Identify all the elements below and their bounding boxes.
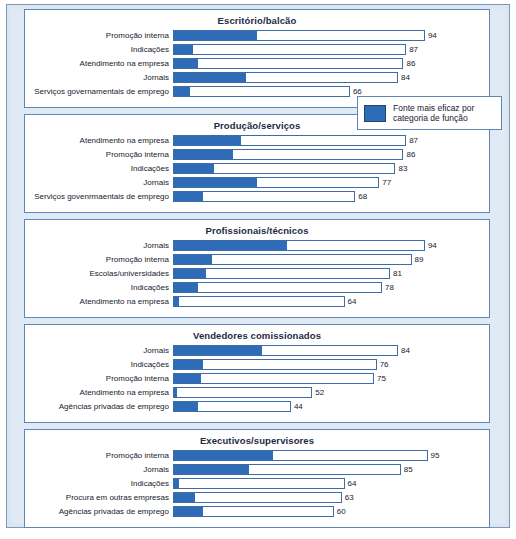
chart-panel: Escritório/balcãoPromoção interna94Indic… xyxy=(24,9,490,108)
bar-row: Indicações83 xyxy=(31,162,483,175)
bar-category-label: Escolas/universidades xyxy=(31,269,173,278)
bar xyxy=(173,359,377,370)
bar xyxy=(173,191,355,202)
bar-row: Promoção interna86 xyxy=(31,148,483,161)
bar-track: 86 xyxy=(173,148,483,161)
bar-value-label: 64 xyxy=(348,478,357,489)
bar-track: 68 xyxy=(173,190,483,203)
bar-row: Procura em outras empresas63 xyxy=(31,491,483,504)
bar-category-label: Jornais xyxy=(31,465,173,474)
bar xyxy=(173,296,345,307)
bar xyxy=(173,135,406,146)
bar-effective-segment xyxy=(174,507,203,516)
bar-effective-segment xyxy=(174,451,273,460)
bar-effective-segment xyxy=(174,241,287,250)
bar-effective-segment xyxy=(174,136,241,145)
bar-track: 83 xyxy=(173,162,483,175)
page-bleed-artifact xyxy=(10,529,506,538)
bar xyxy=(173,30,425,41)
bar-category-label: Indicações xyxy=(31,283,173,292)
bar-effective-segment xyxy=(174,479,179,488)
bar-row: Escolas/universidades81 xyxy=(31,267,483,280)
bar-track: 52 xyxy=(173,386,483,399)
bar-value-label: 75 xyxy=(377,373,386,384)
bar-value-label: 87 xyxy=(409,44,418,55)
bar xyxy=(173,401,291,412)
bar-category-label: Jornais xyxy=(31,241,173,250)
bar-row: Indicações87 xyxy=(31,43,483,56)
bar-row: Indicações78 xyxy=(31,281,483,294)
panel-title: Vendedores comissionados xyxy=(31,330,483,341)
bar-value-label: 86 xyxy=(406,149,415,160)
bar xyxy=(173,240,425,251)
chart-panel: Vendedores comissionadosJornais84Indicaç… xyxy=(24,324,490,423)
bar-category-label: Atendimento na empresa xyxy=(31,59,173,68)
bar-value-label: 52 xyxy=(315,387,324,398)
bar-row: Jornais84 xyxy=(31,71,483,84)
bar-value-label: 84 xyxy=(401,72,410,83)
bar-track: 84 xyxy=(173,71,483,84)
bar-rows: Jornais84Indicações76Promoção interna75A… xyxy=(31,344,483,413)
bar-value-label: 85 xyxy=(404,464,413,475)
bar-track: 77 xyxy=(173,176,483,189)
bar-effective-segment xyxy=(174,269,206,278)
bar-rows: Promoção interna94Indicações87Atendiment… xyxy=(31,29,483,98)
bar xyxy=(173,268,390,279)
bar-row: Atendimento na empresa86 xyxy=(31,57,483,70)
bar-effective-segment xyxy=(174,178,257,187)
legend-box: Fonte mais eficaz por categoria de funçã… xyxy=(357,96,502,130)
bar-track: 94 xyxy=(173,29,483,42)
bar xyxy=(173,345,398,356)
panel-title: Executivos/supervisores xyxy=(31,435,483,446)
bar-track: 78 xyxy=(173,281,483,294)
bar-effective-segment xyxy=(174,374,201,383)
bar xyxy=(173,44,406,55)
bar-track: 95 xyxy=(173,449,483,462)
bar-track: 87 xyxy=(173,43,483,56)
bar-effective-segment xyxy=(174,493,195,502)
bar-value-label: 76 xyxy=(380,359,389,370)
bar-effective-segment xyxy=(174,360,203,369)
bar-value-label: 68 xyxy=(358,191,367,202)
bar-row: Agências privadas de emprego44 xyxy=(31,400,483,413)
bar-track: 76 xyxy=(173,358,483,371)
bar-value-label: 89 xyxy=(415,254,424,265)
bar-row: Indicações64 xyxy=(31,477,483,490)
bar-effective-segment xyxy=(174,150,233,159)
bar-row: Jornais84 xyxy=(31,344,483,357)
bar-value-label: 78 xyxy=(385,282,394,293)
bar-row: Agências privadas de emprego60 xyxy=(31,505,483,518)
bar-category-label: Agências privadas de emprego xyxy=(31,402,173,411)
bar-category-label: Serviços governamentais de emprego xyxy=(31,87,173,96)
bar-track: 63 xyxy=(173,491,483,504)
bar-category-label: Procura em outras empresas xyxy=(31,493,173,502)
bar xyxy=(173,58,403,69)
bar-effective-segment xyxy=(174,465,249,474)
bar-track: 89 xyxy=(173,253,483,266)
bar xyxy=(173,86,350,97)
bar-category-label: Atendimento na empresa xyxy=(31,297,173,306)
bar-effective-segment xyxy=(174,388,177,397)
bar-value-label: 77 xyxy=(382,177,391,188)
bar-value-label: 87 xyxy=(409,135,418,146)
bar-effective-segment xyxy=(174,87,190,96)
bar-track: 75 xyxy=(173,372,483,385)
bar-row: Promoção interna94 xyxy=(31,29,483,42)
legend-swatch-icon xyxy=(364,105,386,122)
bar xyxy=(173,254,412,265)
bar-track: 84 xyxy=(173,344,483,357)
bar-effective-segment xyxy=(174,283,198,292)
bar-track: 85 xyxy=(173,463,483,476)
bar xyxy=(173,72,398,83)
bar-row: Jornais77 xyxy=(31,176,483,189)
bar-category-label: Promoção interna xyxy=(31,255,173,264)
bar-value-label: 44 xyxy=(294,401,303,412)
bar-track: 87 xyxy=(173,134,483,147)
bar-track: 86 xyxy=(173,57,483,70)
bar xyxy=(173,387,312,398)
bar-value-label: 83 xyxy=(398,163,407,174)
bar-rows: Atendimento na empresa87Promoção interna… xyxy=(31,134,483,203)
bar-effective-segment xyxy=(174,45,193,54)
bar-row: Promoção interna89 xyxy=(31,253,483,266)
bar-value-label: 63 xyxy=(345,492,354,503)
